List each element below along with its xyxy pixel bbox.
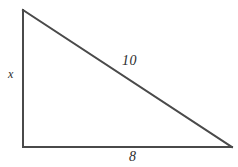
right-triangle-figure: x 10 8	[0, 0, 238, 167]
hypotenuse-line	[23, 10, 232, 147]
hypotenuse-label: 10	[122, 54, 137, 68]
horizontal-leg-label: 8	[129, 150, 136, 164]
vertical-leg-label: x	[8, 68, 13, 80]
triangle-drawing	[0, 0, 238, 167]
